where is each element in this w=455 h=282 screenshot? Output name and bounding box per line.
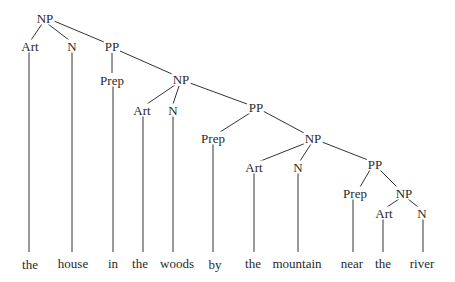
node-np-4: NP — [395, 187, 414, 200]
node-prep-1: Prep — [99, 74, 125, 87]
node-pp-1: PP — [104, 40, 120, 53]
node-prep-3: Prep — [342, 187, 368, 200]
word-the-3: the — [245, 257, 261, 270]
node-prep-2: Prep — [200, 132, 226, 145]
node-art-2: Art — [132, 104, 151, 117]
word-woods: woods — [160, 257, 194, 270]
node-n-3: N — [292, 161, 303, 174]
node-art-1: Art — [20, 40, 39, 53]
word-the-2: the — [132, 257, 148, 270]
node-n-2: N — [167, 104, 178, 117]
node-pp-2: PP — [248, 101, 264, 114]
node-n-4: N — [416, 207, 427, 220]
node-art-4: Art — [374, 207, 393, 220]
word-by: by — [209, 258, 222, 271]
node-n-1: N — [66, 40, 77, 53]
word-near: near — [341, 257, 363, 270]
word-in: in — [108, 257, 118, 270]
word-river: river — [410, 257, 435, 270]
node-pp-3: PP — [367, 158, 383, 171]
node-art-3: Art — [244, 161, 263, 174]
word-the-4: the — [375, 257, 391, 270]
word-house: house — [58, 257, 88, 270]
node-np-root: NP — [36, 12, 55, 25]
node-np-2: NP — [172, 73, 191, 86]
node-np-3: NP — [304, 132, 323, 145]
word-mountain: mountain — [272, 257, 321, 270]
word-the-1: the — [22, 258, 38, 271]
